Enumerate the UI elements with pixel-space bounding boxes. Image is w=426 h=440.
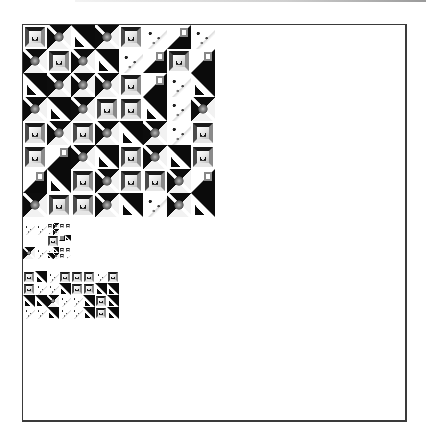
mosaic-tile [95,193,119,217]
quadtree-mosaic [23,25,223,325]
mosaic-tile [71,169,95,193]
tile-pattern [108,272,118,282]
tile-pattern [35,307,47,319]
tile-pattern [35,271,47,283]
tile-pattern [107,307,119,319]
mosaic-tile [47,235,59,247]
mosaic-tile [35,283,47,295]
mosaic-tile [107,283,119,295]
mosaic-tile [119,49,143,73]
tile-pattern [47,295,59,307]
mosaic-tile [59,283,71,295]
mosaic-tile [59,271,71,283]
tile-pattern [191,193,215,217]
tile-pattern [66,224,70,228]
tile-pattern [71,295,83,307]
mosaic-tile [47,121,71,145]
tile-pattern [84,284,94,294]
mosaic-tile [95,145,119,169]
mosaic-tile [119,169,143,193]
tile-pattern [49,195,69,215]
tile-pattern [95,271,107,283]
mosaic-tile [95,73,119,97]
tile-pattern [95,121,119,145]
tile-pattern [191,169,215,193]
mosaic-tile [35,271,47,283]
mosaic-tile [107,271,119,283]
tile-pattern [35,223,47,235]
tile-pattern [95,193,119,217]
tile-pattern [71,73,95,97]
mosaic-tile [71,25,95,49]
tile-pattern [23,193,47,217]
mosaic-tile [71,295,83,307]
mosaic-tile [23,49,47,73]
mosaic-tile [191,145,215,169]
tile-pattern [71,25,95,49]
tile-pattern [47,25,71,49]
tile-pattern [167,193,191,217]
tile-pattern [23,247,35,259]
mosaic-tile [65,223,71,229]
tile-pattern [47,73,71,97]
mosaic-tile [65,253,71,259]
tile-pattern [119,49,143,73]
tile-pattern [73,171,93,191]
tile-pattern [59,295,71,307]
tile-pattern [47,283,59,295]
mosaic-tile [23,295,35,307]
mosaic-tile [71,307,83,319]
tile-pattern [66,248,70,252]
mosaic-tile [143,145,167,169]
mosaic-tile [23,193,47,217]
mosaic-tile [143,25,167,49]
tile-pattern [59,307,71,319]
tile-pattern [95,49,119,73]
mosaic-tile [167,49,191,73]
mosaic-tile [47,25,71,49]
mosaic-tile [167,169,191,193]
mosaic-tile [59,295,71,307]
mosaic-tile [47,49,71,73]
tile-pattern [73,195,93,215]
mosaic-tile [191,49,215,73]
tile-pattern [71,49,95,73]
tile-pattern [95,73,119,97]
mosaic-tile [107,295,119,307]
mosaic-tile [71,49,95,73]
tile-pattern [167,121,191,145]
tile-pattern [23,73,47,97]
tile-pattern [60,248,64,252]
tile-pattern [60,254,64,258]
mosaic-tile [119,97,143,121]
mosaic-tile [119,25,143,49]
mosaic-tile [191,73,215,97]
mosaic-tile [119,121,143,145]
mosaic-tile [47,97,71,121]
tile-pattern [96,296,106,306]
tile-pattern [191,25,215,49]
mosaic-tile [71,73,95,97]
mosaic-tile [83,271,95,283]
tile-pattern [121,171,141,191]
tile-pattern [191,97,215,121]
mosaic-tile [23,223,35,235]
tile-pattern [47,145,71,169]
mosaic-tile [107,307,119,319]
mosaic-tile [119,73,143,97]
mosaic-tile [143,97,167,121]
tile-pattern [25,123,45,143]
mosaic-tile [71,271,83,283]
tile-pattern [25,27,45,47]
tile-pattern [191,49,215,73]
mosaic-tile [23,73,47,97]
tile-pattern [121,99,141,119]
mosaic-tile [167,73,191,97]
tile-pattern [71,145,95,169]
tile-pattern [65,235,71,241]
tile-pattern [167,145,191,169]
mosaic-tile [83,307,95,319]
tile-pattern [119,121,143,145]
mosaic-tile [143,49,167,73]
tile-pattern [145,171,165,191]
